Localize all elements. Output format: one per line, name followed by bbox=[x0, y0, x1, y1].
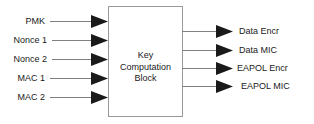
output-label-data-encr: Data Encr bbox=[239, 27, 279, 36]
input-label-mac-1: MAC 1 bbox=[0, 74, 45, 83]
output-label-eapol-mic: EAPOL MIC bbox=[241, 82, 290, 91]
input-arrowhead-2 bbox=[91, 53, 108, 66]
input-arrowhead-3 bbox=[91, 72, 108, 85]
block-title-line-1: Key bbox=[108, 50, 183, 62]
block-title: Key Computation Block bbox=[108, 50, 183, 85]
input-arrowhead-1 bbox=[91, 34, 108, 47]
input-arrowheads bbox=[91, 15, 108, 104]
output-label-eapol-encr: EAPOL Encr bbox=[237, 64, 288, 73]
output-connector-lines bbox=[182, 32, 218, 87]
output-label-data-mic: Data MIC bbox=[239, 46, 277, 55]
output-arrowhead-3 bbox=[216, 80, 233, 93]
input-label-pmk: PMK bbox=[0, 17, 45, 26]
input-arrowhead-4 bbox=[91, 91, 108, 104]
output-arrowhead-0 bbox=[216, 25, 233, 38]
block-title-line-2: Computation bbox=[108, 62, 183, 74]
input-label-mac-2: MAC 2 bbox=[0, 93, 45, 102]
input-connector-lines bbox=[50, 22, 93, 98]
input-label-nonce-2: Nonce 2 bbox=[0, 55, 47, 64]
diagram-canvas: Key Computation Block PMK Nonce 1 Nonce … bbox=[0, 0, 314, 124]
output-arrowhead-2 bbox=[216, 62, 233, 75]
output-arrowheads bbox=[216, 25, 233, 93]
block-title-line-3: Block bbox=[108, 73, 183, 85]
output-arrowhead-1 bbox=[216, 44, 233, 57]
input-arrowhead-0 bbox=[91, 15, 108, 28]
input-label-nonce-1: Nonce 1 bbox=[0, 36, 47, 45]
